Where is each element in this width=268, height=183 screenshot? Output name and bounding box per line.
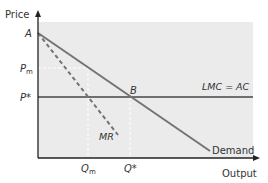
- point-b-label: B: [130, 85, 137, 96]
- lmc-ac-label: LMC = AC: [202, 81, 250, 92]
- demand-label: Demand: [212, 145, 254, 156]
- economics-diagram: Price Output A B Pm P* Qm Q* LMC = AC MR…: [0, 0, 268, 183]
- point-a-label: A: [24, 28, 32, 39]
- pm-label: Pm: [20, 63, 33, 76]
- y-axis-arrow-icon: [35, 10, 41, 17]
- pstar-label: P*: [20, 92, 31, 103]
- qstar-label: Q*: [124, 163, 137, 174]
- x-axis-label: Output: [222, 168, 257, 179]
- mr-label: MR: [99, 131, 114, 142]
- qm-label: Qm: [81, 163, 96, 176]
- y-axis-label: Price: [5, 9, 29, 20]
